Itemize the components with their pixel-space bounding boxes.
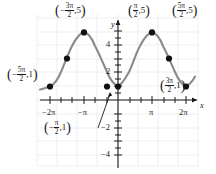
y-tick-label-4: 4 [106,40,110,49]
x-axis-label: x [200,101,204,110]
data-point [104,83,110,89]
tick-text: 2π [47,107,56,117]
paren-close: ) [145,5,150,16]
paren-close: ) [193,5,198,16]
data-point [47,83,53,89]
y-axis-label: y [111,20,115,29]
tick-text: π [149,107,153,117]
y-tick-label-neg-2: −2 [101,123,110,132]
tick-text: π [83,107,87,117]
fraction: 3π2 [165,77,174,93]
data-point [115,83,121,89]
x-tick-label-2pi: 2π [179,108,188,117]
fraction: π2 [54,119,60,135]
point-label-3pi-over-2-1: (3π2,1) [160,78,185,94]
data-point [81,29,87,35]
y-tick-label-2: 2 [106,67,110,76]
data-point [64,55,70,61]
fraction: 5π2 [17,66,26,82]
paren-close: ) [181,80,186,91]
x-tick-label-neg-2pi: −2π [42,108,55,117]
graph-figure: (−3π2,5) (π2,5) (5π2,5) (−5π2,1) (3π2,1)… [0,0,216,174]
paren-close: ) [66,122,71,133]
data-point [149,29,155,35]
paren-close: ) [33,69,38,80]
paren-open: ( [7,69,12,80]
y-axis [114,20,122,168]
fraction: 5π2 [177,2,186,18]
fraction: π2 [133,2,139,18]
paren-close: ) [81,5,86,16]
x-tick-label-neg-pi: −π [78,108,87,117]
paren-open: ( [55,5,60,16]
point-label-5pi-over-2-5: (5π2,5) [172,3,197,19]
point-label-pi-over-2-5: (π2,5) [128,3,150,19]
fraction: 3π2 [65,2,74,18]
point-label-neg-3pi-over-2-5: (−3π2,5) [55,3,86,19]
paren-open: ( [44,122,49,133]
x-tick-label-pi: π [149,108,153,117]
tick-text: 2π [179,107,188,117]
data-point [166,55,172,61]
point-label-neg-pi-over-2-1: (−π2,1) [44,120,71,136]
y-tick-label-neg-4: −4 [101,150,110,159]
point-label-neg-5pi-over-2-1: (−5π2,1) [7,67,38,83]
